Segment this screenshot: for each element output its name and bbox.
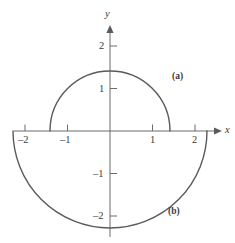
chart-figure: y x –2 –1 1 2 2 1 –1 –2 (a) (b) xyxy=(0,0,235,243)
curve-label-b: (b) xyxy=(168,207,180,217)
plot-canvas xyxy=(0,0,235,243)
x-axis-label: x xyxy=(225,125,230,136)
y-tick-label-neg1: –1 xyxy=(93,169,104,180)
x-tick-label-pos2: 2 xyxy=(192,135,197,146)
x-axis xyxy=(14,127,222,134)
x-tick-label-pos1: 1 xyxy=(150,135,155,146)
y-tick-label-neg2: –2 xyxy=(93,211,104,222)
y-tick-label-pos2: 2 xyxy=(99,41,104,52)
y-axis-label: y xyxy=(105,9,110,20)
x-tick-label-neg2: –2 xyxy=(18,135,29,146)
y-tick-label-pos1: 1 xyxy=(99,84,104,95)
curve-label-a: (a) xyxy=(172,72,183,82)
x-tick-label-neg1: –1 xyxy=(60,135,71,146)
